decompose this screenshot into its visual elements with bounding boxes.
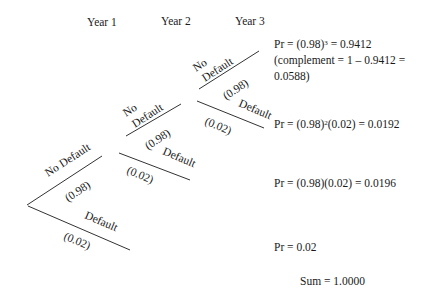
outcome-1-complement-value: 0.0588) xyxy=(274,70,309,83)
outcome-1-pre: Pr = (0.98) xyxy=(274,38,324,50)
y3-down-label: Default xyxy=(237,97,274,122)
header-year-2: Year 2 xyxy=(161,15,191,28)
y2-up-label-2: Default xyxy=(130,100,166,129)
outcome-4: Pr = 0.02 xyxy=(274,241,317,254)
outcome-1: Pr = (0.98)3 = 0.9412 xyxy=(274,38,372,51)
y1-up-prob: (0.98) xyxy=(63,178,94,204)
y2-down-prob: (0.02) xyxy=(125,164,156,187)
y3-down-prob: (0.02) xyxy=(203,115,234,138)
outcome-2-pre: Pr = (0.98) xyxy=(274,118,324,130)
outcome-2-post: (0.02) = 0.0192 xyxy=(328,118,400,130)
outcome-1-post: = 0.9412 xyxy=(328,38,372,50)
y1-up-label: No Default xyxy=(43,140,93,179)
outcome-1-exponent: 3 xyxy=(324,39,328,47)
y1-down-label: Default xyxy=(83,209,120,234)
sum-total: Sum = 1.0000 xyxy=(300,275,365,288)
header-year-1: Year 1 xyxy=(87,16,117,29)
outcome-1-complement: (complement = 1 – 0.9412 = xyxy=(274,54,405,67)
outcome-3: Pr = (0.98)(0.02) = 0.0196 xyxy=(274,177,396,190)
outcome-2: Pr = (0.98)2(0.02) = 0.0192 xyxy=(274,118,399,131)
header-year-3: Year 3 xyxy=(235,15,265,28)
outcome-2-exponent: 2 xyxy=(324,119,328,127)
y2-down-label: Default xyxy=(161,145,198,170)
y1-down-prob: (0.02) xyxy=(62,230,93,253)
